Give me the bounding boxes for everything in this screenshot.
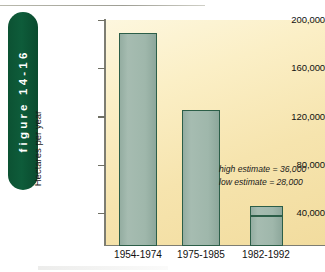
estimate-annotation: high estimate = 36,000 low estimate = 28…	[219, 163, 306, 188]
y-tick-label-120000: 120,000	[233, 111, 325, 122]
figure-number-label: figure 14-16	[17, 50, 29, 153]
y-tick-label-160000: 160,000	[233, 62, 325, 73]
y-tick-mark-160000	[98, 68, 105, 70]
y-axis-title: Hectares per year	[32, 94, 43, 204]
cropped-caption-sliver	[38, 266, 168, 270]
header-rule	[0, 5, 205, 6]
bar-1954-1974	[119, 33, 157, 246]
y-tick-label-200000: 200,000	[233, 14, 325, 25]
x-label-1982-1992: 1982-1992	[236, 249, 296, 260]
y-tick-mark-80000	[98, 165, 105, 167]
y-tick-mark-40000	[98, 213, 105, 215]
x-label-1975-1985: 1975-1985	[171, 249, 231, 260]
high-estimate-text: high estimate = 36,000	[219, 163, 306, 176]
bar-1982-1992	[250, 206, 283, 246]
bar-low-estimate-divider	[251, 215, 282, 217]
bar-1975-1985	[182, 110, 220, 246]
x-label-1954-1974: 1954-1974	[108, 249, 168, 260]
low-estimate-text: low estimate = 28,000	[219, 176, 306, 189]
y-tick-mark-120000	[98, 116, 105, 118]
y-tick-mark-200000	[98, 20, 105, 22]
